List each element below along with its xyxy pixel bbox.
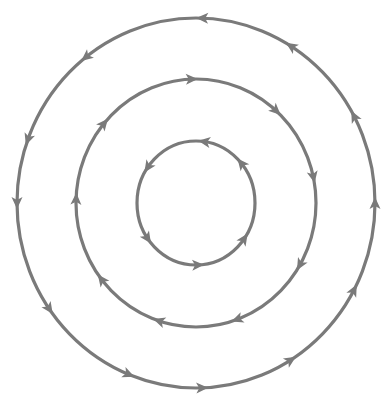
middle-ring bbox=[70, 73, 320, 328]
arrowhead-icon bbox=[346, 108, 361, 124]
arrowhead-icon bbox=[292, 257, 307, 273]
inner-ring-path bbox=[137, 141, 255, 265]
arrowhead-icon bbox=[121, 367, 136, 382]
outer-ring-path bbox=[17, 18, 375, 388]
arrowhead-icon bbox=[21, 132, 35, 147]
inner-ring bbox=[137, 135, 255, 270]
arrowhead-icon bbox=[346, 282, 361, 298]
outer-ring bbox=[12, 12, 381, 393]
rings-group bbox=[12, 12, 381, 393]
concentric-loops-diagram bbox=[0, 0, 387, 400]
arrowhead-icon bbox=[229, 312, 244, 327]
middle-ring-path bbox=[76, 79, 316, 327]
